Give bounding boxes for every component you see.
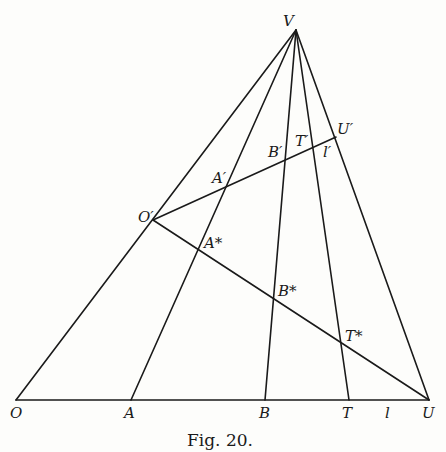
- label-B-prime: B′: [267, 143, 283, 161]
- figure-caption: Fig. 20.: [187, 430, 253, 450]
- label-U: U: [422, 404, 436, 422]
- label-T: T: [342, 404, 353, 422]
- label-A-star: A*: [202, 234, 223, 252]
- label-T-prime: T′: [295, 132, 309, 150]
- projective-geometry-figure: V O A B T U l O′ A′ B′ T′ U′ l′ A* B* T*…: [0, 0, 446, 452]
- label-B-star: B*: [277, 282, 297, 300]
- label-A-prime: A′: [210, 169, 227, 187]
- label-T-star: T*: [345, 327, 363, 345]
- label-l-prime: l′: [323, 143, 332, 161]
- label-V: V: [283, 12, 296, 30]
- label-O: O: [10, 404, 22, 422]
- ray-V-T: [296, 30, 349, 400]
- label-U-prime: U′: [337, 120, 354, 138]
- label-A: A: [122, 404, 135, 422]
- line-Oprime-U: [153, 220, 429, 400]
- line-l-prime: [153, 137, 336, 220]
- label-O-prime: O′: [138, 208, 154, 226]
- label-l: l: [385, 404, 390, 422]
- ray-V-B: [265, 30, 296, 400]
- label-B: B: [258, 404, 270, 422]
